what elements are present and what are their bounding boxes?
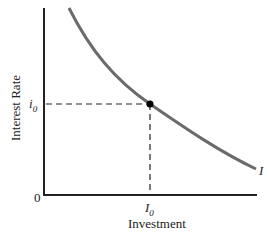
investment-chart (0, 0, 275, 237)
equilibrium-point (147, 101, 154, 108)
investment-curve (69, 8, 256, 169)
origin-label: 0 (34, 190, 41, 206)
curve-label: I (259, 163, 263, 179)
y-marker-label: i0 (29, 96, 37, 114)
y-axis-label: Interest Rate (8, 68, 24, 148)
x-marker-label: I0 (145, 200, 154, 218)
x-axis-label: Investment (128, 216, 186, 232)
